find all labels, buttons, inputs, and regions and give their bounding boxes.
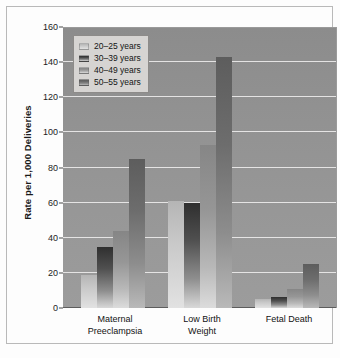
bar-group — [168, 28, 232, 308]
legend-item-label: 50–55 years — [94, 76, 141, 88]
y-tick-mark — [59, 272, 63, 273]
y-tick-label: 60 — [48, 198, 58, 208]
legend-swatch-icon — [79, 43, 89, 50]
legend-item[interactable]: 40–49 years — [79, 64, 141, 76]
y-tick-label: 120 — [43, 92, 58, 102]
y-tick-mark — [59, 97, 63, 98]
y-tick-label: 0 — [53, 303, 58, 313]
y-tick-mark — [59, 27, 63, 28]
bar[interactable] — [216, 57, 232, 308]
y-axis-title: Rate per 1,000 Deliveries — [22, 73, 33, 253]
bar[interactable] — [168, 201, 184, 308]
legend-item[interactable]: 20–25 years — [79, 40, 141, 52]
bar[interactable] — [129, 159, 145, 308]
y-tick-label: 140 — [43, 57, 58, 67]
bar[interactable] — [200, 145, 216, 308]
x-axis-group-label: Low BirthWeight — [152, 314, 252, 337]
plot-wrapper: 20–25 years30–39 years40–49 years50–55 y… — [63, 27, 337, 308]
y-tick-label: 20 — [48, 268, 58, 278]
legend-item-label: 40–49 years — [94, 64, 141, 76]
chart-page: Rate per 1,000 Deliveries 20–25 years30–… — [0, 0, 340, 358]
x-axis-label-line: Weight — [152, 326, 252, 338]
legend-swatch-icon — [79, 79, 89, 86]
x-axis-group-label: MaternalPreeclampsia — [65, 314, 165, 337]
legend-item-label: 20–25 years — [94, 40, 141, 52]
x-axis-label-line: Low Birth — [152, 314, 252, 326]
y-tick-mark — [59, 132, 63, 133]
bar[interactable] — [255, 299, 271, 308]
x-axis-label-line: Preeclampsia — [65, 326, 165, 338]
y-tick-label: 100 — [43, 127, 58, 137]
bar[interactable] — [303, 264, 319, 308]
bar[interactable] — [113, 231, 129, 308]
y-tick-label: 80 — [48, 163, 58, 173]
x-axis-group-label: Fetal Death — [239, 314, 339, 326]
y-tick-label: 160 — [43, 22, 58, 32]
bar[interactable] — [81, 275, 97, 308]
legend-swatch-icon — [79, 67, 89, 74]
y-tick-mark — [59, 167, 63, 168]
y-tick-mark — [59, 237, 63, 238]
legend: 20–25 years30–39 years40–49 years50–55 y… — [73, 35, 149, 93]
bar[interactable] — [271, 297, 287, 308]
y-tick-mark — [59, 308, 63, 309]
plot-area: 20–25 years30–39 years40–49 years50–55 y… — [63, 27, 337, 308]
legend-item-label: 30–39 years — [94, 52, 141, 64]
legend-item[interactable]: 50–55 years — [79, 76, 141, 88]
legend-item[interactable]: 30–39 years — [79, 52, 141, 64]
y-tick-mark — [59, 62, 63, 63]
x-axis-label-line: Maternal — [65, 314, 165, 326]
bar[interactable] — [287, 289, 303, 308]
y-tick-mark — [59, 202, 63, 203]
legend-swatch-icon — [79, 55, 89, 62]
x-axis-label-line: Fetal Death — [239, 314, 339, 326]
y-tick-label: 40 — [48, 233, 58, 243]
bar[interactable] — [184, 203, 200, 308]
bar[interactable] — [97, 247, 113, 308]
chart-frame: Rate per 1,000 Deliveries 20–25 years30–… — [6, 6, 333, 344]
bar-group — [255, 28, 319, 308]
